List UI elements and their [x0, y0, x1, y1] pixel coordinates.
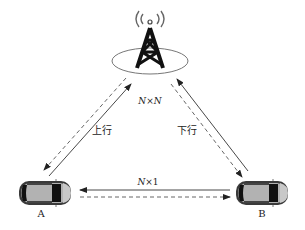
- car-icon: [19, 179, 71, 207]
- vehicle-a-label: A: [36, 208, 45, 219]
- cellular-link-label: N×N: [137, 96, 162, 106]
- car-icon: [236, 179, 288, 207]
- vehicle-a: A: [19, 179, 71, 219]
- uplink-label: 上行: [92, 124, 112, 136]
- downlink-label: 下行: [177, 124, 197, 136]
- sidelink-arrows: [80, 190, 230, 197]
- diagram-canvas: N×N 上行 下行 N×1 A B: [0, 0, 305, 230]
- vehicle-b: B: [236, 179, 288, 219]
- uplink-solid-arrow: [49, 84, 131, 176]
- vehicle-b-label: B: [258, 208, 265, 219]
- uplink-dashed-arrow: [44, 78, 126, 170]
- cell-tower: [112, 11, 188, 74]
- cell-tower-icon: [136, 11, 164, 68]
- sidelink-label: N×1: [136, 177, 158, 187]
- uplink-arrows: [44, 78, 131, 176]
